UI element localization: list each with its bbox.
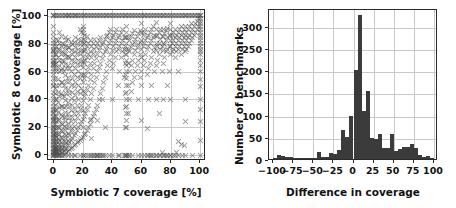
histogram-x-tick-mark <box>413 160 414 163</box>
scatter-gridline-vertical <box>83 10 84 159</box>
scatter-marker <box>71 58 78 65</box>
scatter-marker <box>66 44 73 51</box>
scatter-marker <box>156 29 163 36</box>
figure-two-panel-plot: 020406080100020406080100 Symbiotic 7 cov… <box>0 0 456 208</box>
histogram-gridline-vertical <box>293 10 294 159</box>
scatter-marker <box>185 26 192 33</box>
scatter-marker <box>179 46 186 53</box>
scatter-marker <box>132 47 139 54</box>
scatter-marker <box>88 116 95 123</box>
scatter-marker <box>65 74 72 81</box>
scatter-marker <box>64 78 71 85</box>
scatter-marker <box>69 75 76 82</box>
scatter-marker <box>61 138 68 145</box>
scatter-marker <box>58 144 65 151</box>
scatter-marker <box>74 88 81 95</box>
scatter-marker <box>81 131 88 138</box>
scatter-marker <box>69 114 76 121</box>
scatter-marker <box>124 46 131 53</box>
scatter-marker <box>74 50 81 57</box>
scatter-gridline-horizontal <box>48 44 204 45</box>
scatter-marker <box>90 85 97 92</box>
scatter-marker <box>69 102 76 109</box>
scatter-x-tick-mark <box>53 160 54 163</box>
scatter-marker <box>172 54 179 61</box>
scatter-marker <box>96 64 103 71</box>
scatter-x-tick-label: 20 <box>75 165 88 176</box>
scatter-x-tick-label: 0 <box>50 165 57 176</box>
scatter-marker <box>157 26 164 33</box>
scatter-marker <box>65 110 72 117</box>
scatter-marker <box>115 34 122 41</box>
scatter-marker <box>65 44 72 51</box>
scatter-marker <box>56 47 63 54</box>
scatter-marker <box>68 82 75 89</box>
scatter-marker <box>56 57 63 64</box>
scatter-marker <box>59 92 66 99</box>
scatter-marker <box>124 110 131 117</box>
scatter-marker <box>132 36 139 43</box>
scatter-marker <box>160 47 167 54</box>
scatter-marker <box>143 26 150 33</box>
scatter-marker <box>144 34 151 41</box>
scatter-marker <box>84 33 91 40</box>
scatter-marker <box>175 138 182 145</box>
scatter-marker <box>124 29 131 36</box>
scatter-marker <box>183 46 190 53</box>
histogram-x-tick-label: −75 <box>282 165 303 176</box>
histogram-x-tick-mark <box>292 160 293 163</box>
scatter-gridline-horizontal <box>48 16 204 17</box>
scatter-marker <box>154 32 161 39</box>
scatter-marker <box>178 32 185 39</box>
scatter-marker <box>85 82 92 89</box>
scatter-marker <box>74 74 81 81</box>
scatter-marker <box>91 110 98 117</box>
scatter-marker <box>64 54 71 61</box>
scatter-marker <box>58 33 65 40</box>
scatter-marker <box>72 54 79 61</box>
scatter-marker <box>64 145 71 152</box>
scatter-marker <box>68 47 75 54</box>
scatter-marker <box>71 97 78 104</box>
scatter-marker <box>182 23 189 30</box>
scatter-marker <box>65 36 72 43</box>
scatter-marker <box>160 26 167 33</box>
scatter-marker <box>75 138 82 145</box>
scatter-marker <box>75 46 82 53</box>
scatter-marker <box>61 104 68 111</box>
scatter-marker <box>134 44 141 51</box>
scatter-marker <box>59 48 66 55</box>
scatter-marker <box>55 76 62 83</box>
histogram-panel: −100−75−50−25025507510005010015020025030… <box>228 0 456 208</box>
scatter-marker <box>65 142 72 149</box>
scatter-marker <box>62 72 69 79</box>
scatter-marker <box>134 33 141 40</box>
scatter-marker <box>66 146 73 153</box>
scatter-marker <box>61 131 68 138</box>
scatter-marker <box>65 86 72 93</box>
scatter-marker <box>153 19 160 26</box>
scatter-marker <box>91 79 98 86</box>
scatter-x-tick-mark <box>111 160 112 163</box>
scatter-marker <box>56 137 63 144</box>
scatter-marker <box>144 46 151 53</box>
scatter-marker <box>68 145 75 152</box>
scatter-marker <box>186 23 193 30</box>
scatter-marker <box>160 60 167 67</box>
scatter-marker <box>147 29 154 36</box>
histogram-y-tick-mark <box>265 49 268 50</box>
scatter-marker <box>163 27 170 34</box>
scatter-marker <box>71 123 78 130</box>
histogram-x-tick-label: 50 <box>386 165 399 176</box>
scatter-marker <box>124 23 131 30</box>
scatter-marker <box>55 117 62 124</box>
scatter-marker <box>66 139 73 146</box>
scatter-marker <box>61 144 68 151</box>
scatter-marker <box>181 34 188 41</box>
scatter-marker <box>115 82 122 89</box>
scatter-marker <box>74 139 81 146</box>
scatter-marker <box>81 60 88 67</box>
scatter-x-tick-label: 80 <box>163 165 176 176</box>
scatter-marker <box>59 128 66 135</box>
scatter-marker <box>160 33 167 40</box>
